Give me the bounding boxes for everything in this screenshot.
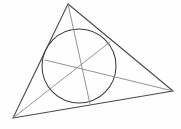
triangle-edge-ab xyxy=(13,4,68,118)
triangle-edge-bc xyxy=(13,91,173,118)
geometry-figure xyxy=(0,0,181,129)
cevian-from-bottom-left xyxy=(13,42,110,118)
geometry-diagram-canvas xyxy=(0,0,181,129)
